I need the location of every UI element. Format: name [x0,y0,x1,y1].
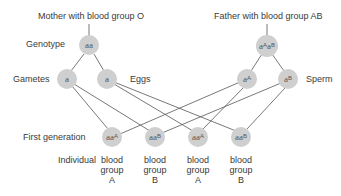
offspring-phenotype-2: bloodgroupB [140,155,170,185]
genotype-label: Genotype [26,39,65,49]
offspring-node-3: aaA [188,127,208,147]
first-generation-label: First generation [23,132,86,142]
offspring-phenotype-1: bloodgroupA [97,155,127,185]
offspring-phenotype-3: bloodgroupA [183,155,213,185]
gametes-label: Gametes [13,74,50,84]
individual-label: Individual [58,155,96,165]
sperm-label: Sperm [306,74,333,84]
sperm-node-B: aB [278,69,298,89]
cross-lines [0,0,341,196]
father-title: Father with blood group AB [214,11,323,21]
offspring-phenotype-4: bloodgroupB [226,155,256,185]
egg-node-2: a [97,69,117,89]
eggs-label: Eggs [130,74,151,84]
father-genotype-node: aAaB [256,35,278,57]
offspring-node-2: aaB [145,127,165,147]
offspring-node-1: aaA [102,127,122,147]
mother-title: Mother with blood group O [38,11,144,21]
egg-node-1: a [57,69,77,89]
offspring-node-4: aaB [231,127,251,147]
sperm-node-A: aA [237,69,257,89]
mother-genotype-node: aa [79,35,99,55]
